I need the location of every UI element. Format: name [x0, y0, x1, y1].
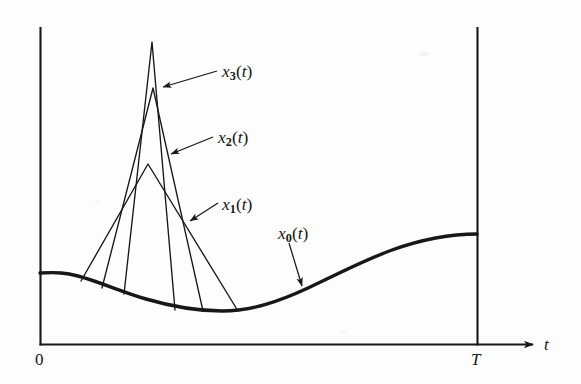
label-x2-arg: (t) [232, 127, 249, 147]
series-x1-curve [81, 164, 238, 311]
label-x3-subscript: 3 [230, 69, 236, 83]
figure-container: x3(t) x2(t) x1(t) x0(t) 0 T t [0, 0, 581, 384]
leader-arrow-x3 [163, 71, 217, 87]
label-x0: x0(t) [278, 225, 308, 243]
label-x2-subscript: 2 [226, 135, 232, 149]
label-x3: x3(t) [222, 63, 252, 81]
label-x1-variable: t [242, 194, 247, 214]
axis-origin-label: 0 [35, 351, 44, 368]
label-leader-arrows [163, 71, 302, 286]
scan-speck [340, 330, 347, 333]
label-x2-variable: t [238, 127, 243, 147]
label-x3-base: x [222, 61, 230, 81]
series-x3-curve [124, 42, 175, 310]
label-x1: x1(t) [222, 196, 252, 214]
label-x2-base: x [218, 127, 226, 147]
figure-drawing [0, 0, 581, 384]
label-x0-base: x [278, 223, 286, 243]
label-x1-base: x [222, 194, 230, 214]
leader-arrow-x1 [190, 203, 218, 221]
label-x1-subscript: 1 [230, 202, 236, 216]
axis-variable-label: t [544, 336, 549, 353]
approximation-curves-group [81, 42, 238, 311]
label-x3-variable: t [242, 61, 247, 81]
label-x0-variable: t [298, 223, 303, 243]
axis-terminal-label: T [471, 351, 480, 368]
leader-arrow-x0 [289, 243, 302, 286]
scan-speck [95, 200, 100, 203]
label-x0-subscript: 0 [286, 231, 292, 245]
label-x2: x2(t) [218, 129, 248, 147]
label-x3-arg: (t) [236, 61, 253, 81]
leader-arrow-x2 [171, 137, 213, 154]
label-x1-arg: (t) [236, 194, 253, 214]
series-x2-curve [102, 88, 203, 311]
label-x0-arg: (t) [292, 223, 309, 243]
scan-speck [420, 52, 429, 56]
